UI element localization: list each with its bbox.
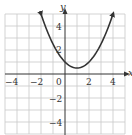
graph: y x −4 −2 0 2 4 4 2 −2 −4	[0, 0, 132, 135]
x-axis-label: x	[128, 67, 132, 78]
y-axis-label: y	[59, 1, 66, 12]
y-tick-label: −2	[49, 94, 62, 104]
x-tick-label: 2	[86, 77, 92, 87]
y-tick-label: 4	[56, 22, 62, 32]
x-tick-label: −4	[5, 77, 19, 87]
x-tick-label: 0	[56, 77, 62, 87]
x-tick-label: 4	[110, 77, 116, 87]
axes	[5, 8, 130, 135]
y-tick-label: −4	[49, 118, 63, 128]
x-tick-label: −2	[30, 77, 43, 87]
